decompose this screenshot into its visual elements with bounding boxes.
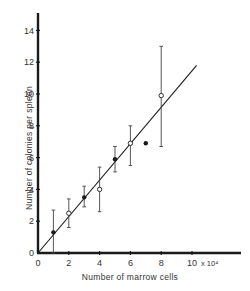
open-point: [128, 141, 132, 145]
y-axis-title: Number of colonies per spleen: [24, 73, 34, 223]
filled-point: [51, 230, 55, 234]
x-axis-title: Number of marrow cells: [60, 272, 200, 282]
x-tick-label: 4: [97, 258, 102, 268]
y-tick-label: 12: [24, 57, 34, 67]
x-multiplier-label: x 10⁴: [201, 259, 218, 268]
filled-point: [82, 195, 86, 199]
regression-line: [38, 65, 197, 253]
x-tick-label: 0: [35, 258, 40, 268]
data-points: [51, 93, 163, 234]
x-tick-label: 8: [159, 258, 164, 268]
filled-point: [144, 141, 148, 145]
filled-point: [113, 157, 117, 161]
open-point: [67, 211, 71, 215]
x-tick-label: 2: [66, 258, 71, 268]
fit-line: [38, 65, 197, 253]
open-point: [97, 187, 101, 191]
scatter-chart: 024681012140246810x 10⁴: [0, 0, 250, 291]
y-tick-label: 0: [29, 248, 34, 258]
error-bars: [52, 46, 163, 253]
open-point: [159, 93, 163, 97]
x-tick-label: 10: [187, 258, 197, 268]
y-tick-label: 14: [24, 26, 34, 36]
x-tick-label: 6: [128, 258, 133, 268]
